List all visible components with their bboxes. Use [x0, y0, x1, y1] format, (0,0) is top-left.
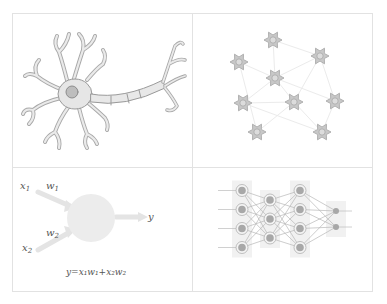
network-node: [238, 225, 246, 233]
output-y-label: y: [147, 211, 154, 222]
network-node: [333, 208, 339, 214]
network-node: [296, 244, 304, 252]
biological-network-illustration: [193, 14, 373, 167]
network-node: [266, 234, 274, 242]
network-node: [333, 224, 339, 230]
figure-caption: [14, 297, 334, 304]
biological-neuron-illustration: [13, 14, 192, 167]
network-node: [238, 187, 246, 195]
network-node: [266, 215, 274, 223]
formula: y=x₁w₁+x₂w₂: [65, 267, 127, 277]
network-node: [238, 206, 246, 214]
weight-w2-label: w2: [46, 227, 60, 240]
weight-w1-label: w1: [46, 180, 59, 193]
artificial-neuron-illustration: x1 w1 w2 x2 y y=x₁w₁+x₂w₂: [13, 168, 192, 292]
input-x1-label: x1: [20, 180, 30, 193]
network-node: [238, 244, 246, 252]
panel-artificial-network: [193, 168, 373, 292]
network-node: [296, 225, 304, 233]
network-node: [266, 196, 274, 204]
input-x2-label: x2: [22, 242, 33, 255]
neuron-node: [67, 194, 115, 242]
panel-artificial-neuron: x1 w1 w2 x2 y y=x₁w₁+x₂w₂: [13, 168, 192, 292]
artificial-network-illustration: [193, 168, 373, 292]
panel-biological-neuron: [13, 14, 192, 167]
panel-biological-network: [193, 14, 373, 167]
network-node: [296, 187, 304, 195]
network-node: [296, 206, 304, 214]
